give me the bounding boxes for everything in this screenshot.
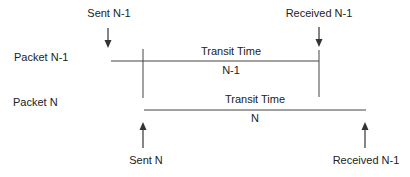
received-n-1-label: Received N-1 [286,7,353,20]
received-n-arrow-icon [362,122,369,148]
timeline-diagram [0,0,410,177]
transit-time-n-sub: N [251,112,259,125]
received-n-label: Received N-1 [333,154,400,167]
sent-n-label: Sent N [129,154,163,167]
packet-n-1-label: Packet N-1 [14,51,68,64]
transit-time-n-1-sub: N-1 [222,64,240,77]
transit-time-n-label: Transit Time [225,93,285,106]
packet-n-label: Packet N [13,96,58,109]
sent-n-1-arrow-icon [105,28,112,48]
received-n-1-arrow-icon [316,27,323,47]
transit-time-n-1-label: Transit Time [201,45,261,58]
sent-n-arrow-icon [140,122,147,148]
sent-n-1-label: Sent N-1 [87,7,130,20]
